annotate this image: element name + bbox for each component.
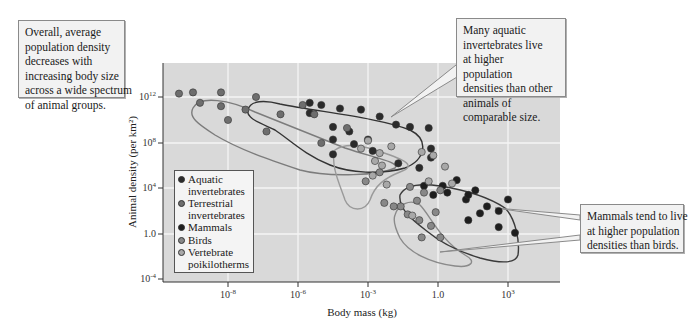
data-point xyxy=(376,169,383,176)
data-point xyxy=(437,187,444,194)
data-point xyxy=(425,124,432,131)
data-point xyxy=(196,99,203,106)
x-axis-title: Body mass (kg) xyxy=(327,306,397,319)
callout-text: at higher population xyxy=(587,224,677,239)
x-tick-label: 103 xyxy=(501,288,515,300)
data-point xyxy=(430,191,437,198)
data-point xyxy=(416,164,423,171)
y-axis-title: Animal density (per km²) xyxy=(126,116,139,228)
data-point xyxy=(217,89,224,96)
x-tick-label: 1.0 xyxy=(432,289,445,300)
data-point xyxy=(418,234,425,241)
data-point xyxy=(369,147,376,154)
data-point xyxy=(336,105,343,112)
data-point xyxy=(388,143,395,150)
data-point xyxy=(242,106,249,113)
chart-legend: Aquaticinvertebrates Terrestrialinverteb… xyxy=(174,170,254,273)
callout-text: invertebrates live xyxy=(463,38,559,53)
data-point xyxy=(329,151,336,158)
data-point xyxy=(318,101,325,108)
legend-dot-icon xyxy=(178,224,185,231)
data-point xyxy=(409,212,416,219)
data-point xyxy=(483,203,490,210)
data-point xyxy=(277,111,284,118)
data-point xyxy=(504,196,511,203)
data-point xyxy=(311,111,318,118)
data-point xyxy=(357,145,364,152)
data-point xyxy=(465,217,472,224)
data-point xyxy=(343,124,350,131)
data-point xyxy=(263,128,270,135)
callout-aquatic-invertebrates: Many aquatic invertebrates live at highe… xyxy=(456,18,566,97)
data-point xyxy=(217,103,224,110)
x-tick-label: 10-6 xyxy=(290,288,306,300)
data-point xyxy=(441,163,448,170)
data-point xyxy=(329,136,336,143)
legend-item-aquatic-invertebrates: Aquaticinvertebrates xyxy=(178,174,250,197)
y-tick-label: 10-4 xyxy=(140,272,156,284)
data-point xyxy=(364,137,371,144)
data-point xyxy=(350,141,357,148)
data-point xyxy=(448,180,455,187)
callout-text: densities than birds. xyxy=(587,238,677,253)
data-point xyxy=(476,210,483,217)
data-point xyxy=(425,178,432,185)
data-point xyxy=(329,123,336,130)
data-point xyxy=(397,203,404,210)
y-tick-label: 1.0 xyxy=(144,228,157,239)
scatter-chart: 1012 108 104 1.0 10-4 10-8 10-6 10-3 1.0… xyxy=(0,0,697,326)
data-point xyxy=(472,187,479,194)
data-point xyxy=(437,234,444,241)
data-point xyxy=(465,191,472,198)
data-point xyxy=(392,121,399,128)
data-point xyxy=(406,183,413,190)
data-point xyxy=(495,207,502,214)
data-point xyxy=(318,139,325,146)
data-point xyxy=(430,152,437,159)
legend-item-vertebrate-poikilotherms: Vertebratepoikilotherms xyxy=(178,247,250,270)
data-point xyxy=(376,150,383,157)
data-point xyxy=(383,181,390,188)
x-tick-label: 10-3 xyxy=(360,288,376,300)
y-tick-label: 1012 xyxy=(139,90,157,102)
callout-text: at higher xyxy=(463,52,559,67)
data-point xyxy=(175,90,182,97)
data-point xyxy=(406,123,413,130)
legend-dot-icon xyxy=(178,200,185,207)
legend-dot-icon xyxy=(178,249,185,256)
data-point xyxy=(427,145,434,152)
legend-dot-icon xyxy=(178,176,185,183)
callout-mammals-vs-birds: Mammals tend to live at higher populatio… xyxy=(580,204,684,253)
y-tick-label: 104 xyxy=(143,181,157,193)
data-point xyxy=(427,222,434,229)
x-tick-label: 10-8 xyxy=(220,288,236,300)
callout-text: comparable size. xyxy=(463,110,559,125)
data-point xyxy=(189,89,196,96)
callout-text: Many aquatic xyxy=(463,23,559,38)
data-point xyxy=(299,101,306,108)
data-point xyxy=(420,189,427,196)
callout-text: Mammals tend to live xyxy=(587,209,677,224)
legend-item-terrestrial-invertebrates: Terrestrialinvertebrates xyxy=(178,198,250,221)
callout-text: population xyxy=(463,67,559,82)
data-point xyxy=(418,148,425,155)
data-point xyxy=(395,160,402,167)
data-point xyxy=(376,113,383,120)
data-point xyxy=(413,197,420,204)
data-point xyxy=(511,229,518,236)
data-point xyxy=(357,106,364,113)
data-point xyxy=(371,157,378,164)
data-point xyxy=(369,172,376,179)
callout-text: animals of xyxy=(463,96,559,111)
data-point xyxy=(252,93,259,100)
legend-dot-icon xyxy=(178,237,185,244)
data-point xyxy=(362,178,369,185)
data-point xyxy=(416,217,423,224)
data-point xyxy=(381,199,388,206)
legend-item-birds: Birds xyxy=(178,235,250,247)
data-point xyxy=(306,99,313,106)
legend-item-mammals: Mammals xyxy=(178,222,250,234)
y-tick-label: 108 xyxy=(143,136,157,148)
callout-text: densities than other xyxy=(463,81,559,96)
data-point xyxy=(378,162,385,169)
